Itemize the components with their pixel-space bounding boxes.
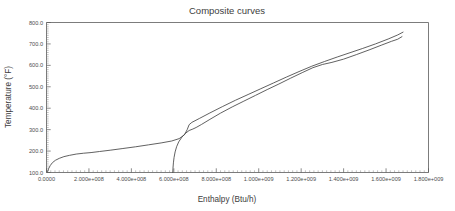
x-tick-label: 2.000e+008 [74,176,104,182]
y-tick-label: 800.0 [29,20,43,26]
y-tick-label: 400.0 [29,105,43,111]
y-tick-label: 600.0 [29,62,43,68]
x-tick-label: 1.000e+009 [244,176,274,182]
y-tick-label: 100.0 [29,170,43,176]
x-axis-tick-labels: 0.00002.000e+0084.000e+0086.000e+0088.00… [38,176,443,182]
x-tick-label: 1.800e+009 [414,176,444,182]
chart-title: Composite curves [189,5,265,16]
x-tick-label: 4.000e+008 [117,176,147,182]
composite-curves-chart: Composite curves Enthalpy (Btu/h) Temper… [0,0,455,211]
y-tick-label: 200.0 [29,148,43,154]
y-axis-tick-labels: 100.0200.0300.0400.0500.0600.0700.0800.0 [29,20,43,176]
x-tick-label: 8.000e+008 [201,176,231,182]
data-series-group [48,32,403,172]
y-axis-ticks [47,23,51,173]
x-tick-label: 1.200e+009 [286,176,316,182]
y-tick-label: 300.0 [29,127,43,133]
x-tick-label: 0.0000 [38,176,55,182]
x-tick-label: 6.000e+008 [159,176,189,182]
y-axis-title: Temperature (°F) [4,66,13,128]
x-tick-label: 1.600e+009 [371,176,401,182]
curve-hot [48,32,403,172]
curve-cold [173,37,402,173]
x-tick-label: 1.400e+009 [329,176,359,182]
y-tick-label: 500.0 [29,84,43,90]
chart-canvas: Composite curves Enthalpy (Btu/h) Temper… [0,0,455,211]
y-tick-label: 700.0 [29,41,43,47]
x-axis-ticks [47,168,429,172]
x-axis-title: Enthalpy (Btu/h) [198,195,257,204]
